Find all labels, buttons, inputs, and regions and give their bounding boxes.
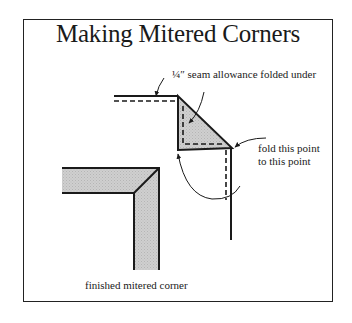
seam-allowance-label: ¼″ seam allowance folded under (172, 68, 316, 81)
finished-corner-illustration (62, 168, 159, 270)
fold-label-line1: fold this point (258, 142, 320, 155)
diagram-canvas: Making Mitered Corners (0, 0, 352, 323)
finished-corner-inner-edge (62, 193, 134, 270)
fold-label-line2: to this point (258, 155, 311, 168)
folded-flap (178, 96, 232, 150)
seam-arrow-top (156, 78, 164, 96)
finished-corner-label: finished mitered corner (85, 279, 188, 292)
